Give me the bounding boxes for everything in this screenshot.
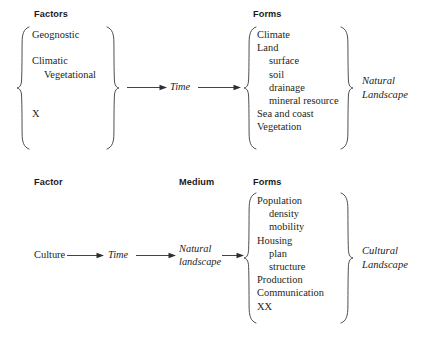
factor-item: Geognostic — [32, 28, 96, 41]
factor-item-spacer — [32, 81, 96, 94]
arrow-time-to-medium — [136, 251, 176, 260]
brace-left-forms-cultural — [243, 192, 257, 324]
outcome-line-1: Natural — [362, 74, 408, 88]
outcome-line-2: Landscape — [362, 88, 408, 102]
natural-landscape-diagram: Factors Forms Geognostic Climatic Vegeta… — [0, 0, 434, 170]
form-item: Production — [257, 273, 324, 286]
factors-item-list: Geognostic Climatic Vegetational X — [32, 28, 96, 152]
form-item: plan — [257, 247, 324, 260]
form-item: structure — [257, 260, 324, 273]
cultural-landscape-diagram: Factor Medium Forms Culture Time Natural… — [0, 170, 434, 339]
medium-line-2: landscape — [179, 255, 221, 268]
outcome-line-1: Cultural — [362, 244, 408, 258]
form-item: Population — [257, 194, 324, 207]
form-item: Communication — [257, 286, 324, 299]
form-item: surface — [257, 54, 339, 67]
form-item: density — [257, 207, 324, 220]
culture-node: Culture — [34, 249, 65, 262]
arrow-culture-to-time — [67, 251, 104, 260]
column-header-factors: Factors — [34, 9, 68, 19]
form-item: Housing — [257, 234, 324, 247]
form-item: Sea and coast — [257, 107, 339, 120]
brace-left-factors — [16, 26, 30, 150]
factor-item: Vegetational — [32, 68, 96, 81]
factor-item-spacer — [32, 41, 96, 54]
column-header-forms-natural: Forms — [253, 9, 282, 19]
form-item: mineral resource — [257, 94, 339, 107]
time-node-cultural: Time — [108, 249, 128, 262]
form-item: XX — [257, 300, 324, 313]
form-item: soil — [257, 68, 339, 81]
factor-item-spacer — [32, 94, 96, 107]
factor-item: Climatic — [32, 54, 96, 67]
form-item: Vegetation — [257, 120, 339, 133]
forms-group-natural: Climate Land surface soil drainage miner… — [243, 26, 354, 150]
arrow-medium-to-forms — [222, 251, 244, 260]
brace-right-forms-cultural — [340, 192, 354, 324]
time-node-natural: Time — [170, 81, 190, 94]
brace-right-forms-natural — [340, 26, 354, 150]
brace-left-forms-natural — [243, 26, 257, 150]
form-item: Land — [257, 41, 339, 54]
outcome-cultural-landscape: Cultural Landscape — [362, 244, 408, 271]
factor-item: X — [32, 107, 96, 120]
brace-right-factors — [106, 26, 120, 150]
column-header-factor: Factor — [34, 177, 63, 187]
forms-item-list-natural: Climate Land surface soil drainage miner… — [257, 28, 339, 152]
medium-line-1: Natural — [179, 242, 221, 255]
form-item: mobility — [257, 220, 324, 233]
medium-natural-landscape: Natural landscape — [179, 242, 221, 269]
column-header-medium: Medium — [179, 177, 214, 187]
forms-item-list-cultural: Population density mobility Housing plan… — [257, 194, 324, 326]
outcome-line-2: Landscape — [362, 258, 408, 272]
arrow-time-to-forms-natural — [198, 83, 241, 92]
factors-group: Geognostic Climatic Vegetational X — [16, 26, 120, 150]
form-item: Climate — [257, 28, 339, 41]
column-header-forms-cultural: Forms — [253, 177, 282, 187]
arrow-factors-to-time — [127, 83, 167, 92]
forms-group-cultural: Population density mobility Housing plan… — [243, 192, 354, 324]
outcome-natural-landscape: Natural Landscape — [362, 74, 408, 101]
form-item: drainage — [257, 81, 339, 94]
